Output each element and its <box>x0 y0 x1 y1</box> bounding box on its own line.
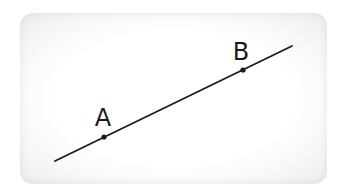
line-ab <box>55 46 292 161</box>
point-b <box>240 67 245 72</box>
point-a <box>101 134 106 139</box>
point-a-label: A <box>95 104 112 132</box>
point-b-label: B <box>233 38 249 66</box>
geometry-diagram: A B <box>0 0 344 195</box>
